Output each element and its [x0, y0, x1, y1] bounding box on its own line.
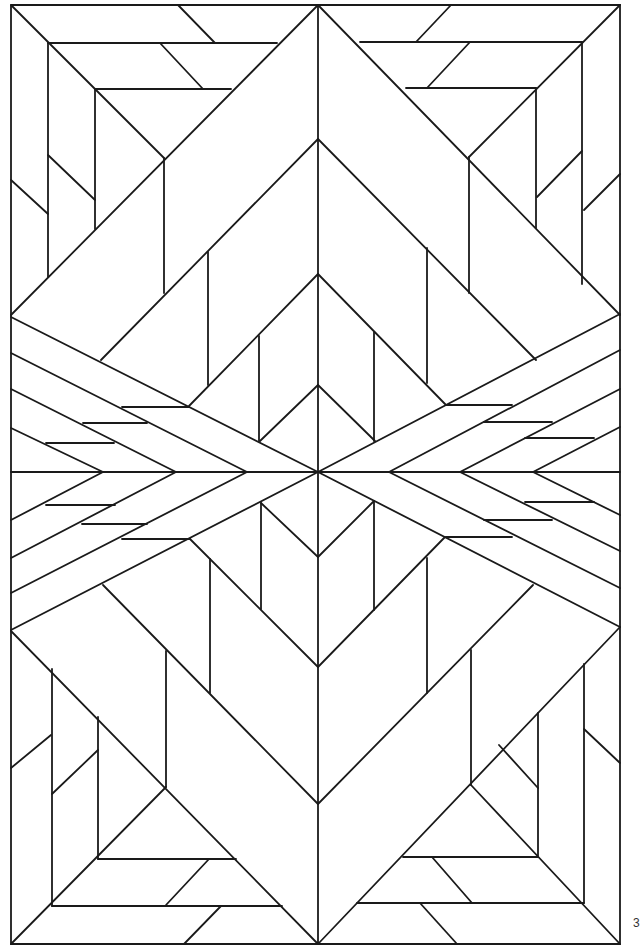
pattern-line — [533, 427, 620, 472]
pattern-line — [11, 472, 247, 593]
pattern-line — [389, 350, 620, 472]
pattern-line — [318, 385, 375, 441]
pattern-line — [11, 317, 318, 472]
pattern-line — [537, 151, 582, 197]
pattern-line — [318, 314, 620, 472]
pattern-line — [178, 5, 215, 43]
pattern-line — [11, 787, 166, 944]
pattern-line — [432, 857, 472, 903]
pattern-line — [11, 735, 51, 768]
pattern-line — [533, 472, 620, 515]
pattern-line — [318, 585, 533, 804]
pattern-line — [584, 174, 620, 210]
pattern-line — [260, 385, 318, 441]
pattern-line — [166, 859, 209, 905]
pattern-line — [11, 180, 48, 214]
pattern-lines — [11, 5, 620, 944]
outer-frame — [11, 5, 620, 944]
pattern-line — [11, 428, 103, 472]
pattern-line — [11, 472, 103, 520]
pattern-line — [389, 472, 620, 588]
pattern-line — [471, 785, 620, 944]
pattern-line — [420, 903, 457, 944]
pattern-line — [11, 5, 164, 158]
pattern-line — [101, 139, 318, 360]
pattern-line — [318, 472, 620, 627]
pattern-line — [52, 750, 98, 794]
pattern-line — [499, 745, 538, 788]
pattern-line — [318, 501, 374, 557]
pattern-line — [48, 155, 95, 200]
pattern-line — [318, 537, 445, 667]
pattern-line — [11, 353, 247, 472]
pattern-line — [184, 906, 221, 944]
pattern-line — [427, 42, 470, 88]
pattern-line — [261, 503, 318, 557]
pattern-line — [460, 472, 620, 551]
pattern-line — [469, 5, 620, 157]
pattern-line — [416, 5, 451, 42]
page-number: 3 — [633, 916, 640, 930]
pattern-line — [160, 43, 203, 89]
pattern-line — [460, 389, 620, 472]
pattern-line — [11, 389, 176, 472]
pattern-line — [11, 472, 176, 558]
geometric-pattern-artwork — [0, 0, 642, 946]
pattern-line — [584, 729, 620, 763]
